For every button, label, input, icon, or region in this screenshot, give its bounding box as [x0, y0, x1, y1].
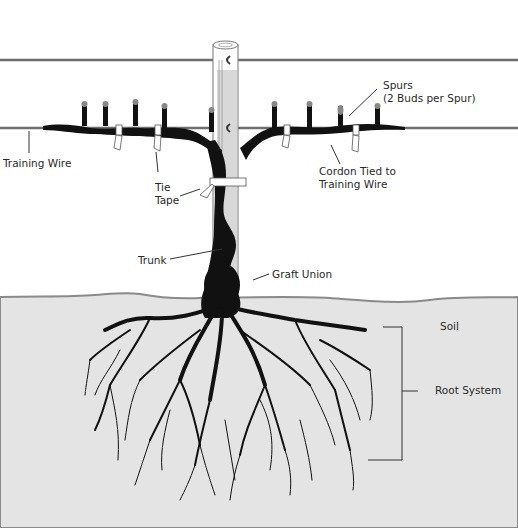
diagram-artwork — [0, 0, 518, 528]
label-soil: Soil — [440, 320, 459, 333]
label-graft-union: Graft Union — [272, 268, 332, 281]
label-cordon-wire: Training Wire — [319, 178, 387, 191]
label-spurs-detail: (2 Buds per Spur) — [383, 92, 476, 105]
label-tie: Tie — [155, 181, 170, 194]
label-tape: Tape — [155, 194, 179, 207]
label-root-system: Root System — [435, 384, 501, 397]
cordon-right — [240, 124, 405, 160]
label-trunk: Trunk — [138, 254, 167, 267]
graft-union — [204, 263, 240, 307]
vine-training-diagram: Training Wire Spurs (2 Buds per Spur) Co… — [0, 0, 518, 528]
label-cordon: Cordon Tied to — [319, 165, 396, 178]
label-spurs: Spurs — [383, 79, 413, 92]
cordon-left — [43, 125, 222, 160]
label-training-wire: Training Wire — [3, 157, 71, 170]
